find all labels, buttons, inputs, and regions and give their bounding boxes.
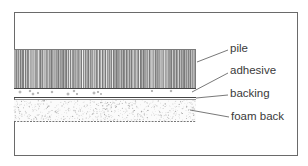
pile-layer [14, 49, 196, 89]
backing-leader-line [196, 95, 228, 98]
foam-back-label: foam back [231, 111, 284, 123]
adhesive-layer [14, 89, 196, 97]
diagram-canvas [0, 0, 308, 166]
foam-back-layer [14, 100, 197, 122]
pile-label: pile [230, 43, 248, 55]
backing-layer [14, 98, 196, 100]
adhesive-leader-line [192, 73, 228, 92]
pile-leader-line [197, 50, 228, 62]
carpet-diagram: pile adhesive backing foam back [0, 0, 308, 166]
backing-label: backing [230, 88, 270, 100]
adhesive-label: adhesive [230, 65, 276, 77]
